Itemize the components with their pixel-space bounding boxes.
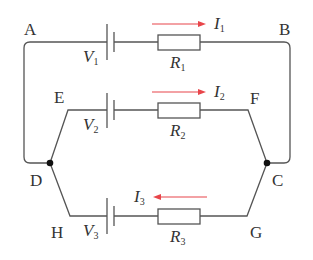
current-arrow-i2 <box>152 89 206 95</box>
label-node-h: H <box>51 223 63 242</box>
label-r3: R3 <box>169 227 185 247</box>
label-node-b: B <box>279 20 290 39</box>
battery-v3 <box>107 198 114 234</box>
node-c-dot <box>264 160 271 167</box>
label-node-d: D <box>30 171 42 190</box>
wire-mid-right <box>200 110 267 163</box>
label-node-a: A <box>24 20 37 39</box>
label-v2: V2 <box>83 115 98 135</box>
resistor-r2 <box>158 103 200 118</box>
battery-v1 <box>107 24 114 60</box>
battery-v2 <box>107 93 114 128</box>
label-r2: R2 <box>169 121 185 141</box>
wire-mid-left <box>50 110 107 163</box>
label-r1: R1 <box>169 53 185 73</box>
label-i3: I3 <box>133 187 145 207</box>
label-node-c: C <box>272 171 283 190</box>
resistor-r3 <box>158 209 200 224</box>
label-v3: V3 <box>83 221 98 241</box>
label-v1: V1 <box>83 47 98 67</box>
wire-top-right <box>200 42 290 163</box>
label-node-f: F <box>250 89 259 108</box>
label-i2: I2 <box>213 82 225 102</box>
resistor-r1 <box>158 35 200 50</box>
wire-bot-left <box>50 163 107 216</box>
node-d-dot <box>47 160 54 167</box>
current-arrow-i1 <box>152 21 206 27</box>
label-node-e: E <box>54 88 64 107</box>
label-i1: I1 <box>213 14 225 34</box>
circuit-diagram: A B E F D C H G V1 V2 V3 R1 R2 R3 I1 I2 … <box>0 0 313 260</box>
current-arrow-i3 <box>153 194 207 200</box>
wire-bot-right <box>200 163 267 216</box>
label-node-g: G <box>250 223 262 242</box>
